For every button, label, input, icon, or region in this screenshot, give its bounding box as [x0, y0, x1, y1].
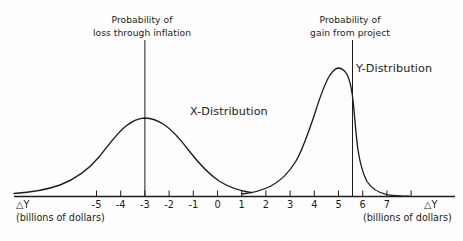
axis-unit-right: (billions of dollars) — [363, 212, 452, 223]
distribution-chart-figure: Probability of loss through inflation Pr… — [0, 0, 463, 241]
tick-label: -2 — [164, 199, 174, 210]
axis-label-left-delta-y: △Y — [16, 199, 29, 210]
tick-label: 2 — [263, 199, 269, 210]
annotation-loss-line1: Probability of — [79, 14, 205, 27]
tick-label: 4 — [311, 199, 317, 210]
tick-label: -4 — [116, 199, 126, 210]
annotation-loss-line2: loss through inflation — [79, 27, 205, 40]
y-distribution-curve — [242, 68, 409, 196]
tick-label: -5 — [92, 199, 102, 210]
tick-label: 7 — [384, 199, 390, 210]
axis-label-right-delta-y: △Y — [424, 199, 437, 210]
tick-label: 6 — [360, 199, 366, 210]
annotation-gain-line2: gain from project — [287, 27, 413, 40]
axis-unit-left: (billions of dollars) — [16, 212, 105, 223]
tick-label: 1 — [239, 199, 245, 210]
tick-label: 3 — [287, 199, 293, 210]
tick-label: -3 — [140, 199, 150, 210]
annotation-gain-line1: Probability of — [287, 14, 413, 27]
tick-label: 5 — [335, 199, 341, 210]
annotation-gain-from-project: Probability of gain from project — [287, 14, 413, 39]
tick-label: 0 — [214, 199, 220, 210]
annotation-loss-through-inflation: Probability of loss through inflation — [79, 14, 205, 39]
tick-label: -1 — [188, 199, 198, 210]
x-distribution-curve — [14, 118, 252, 194]
x-distribution-label: X-Distribution — [190, 105, 268, 118]
y-distribution-label: Y-Distribution — [356, 62, 432, 75]
